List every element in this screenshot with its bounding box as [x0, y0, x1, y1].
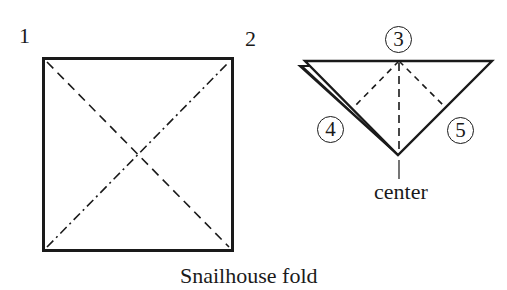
step-marker-3: 3: [385, 26, 412, 53]
step-marker-4: 4: [317, 116, 344, 143]
center-label: center: [374, 181, 428, 203]
corner-label-2: 2: [245, 28, 256, 50]
diagram-caption: Snailhouse fold: [180, 265, 318, 287]
step-marker-5: 5: [447, 117, 474, 144]
square-figure: [44, 59, 233, 251]
corner-label-1: 1: [19, 25, 30, 47]
